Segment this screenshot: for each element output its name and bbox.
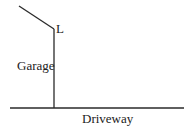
driveway-label: Driveway — [82, 112, 133, 125]
garage-label: Garage — [17, 59, 55, 72]
diagram: L Garage Driveway — [0, 0, 194, 130]
diagonal-line — [19, 6, 54, 29]
point-label-l: L — [56, 22, 64, 35]
